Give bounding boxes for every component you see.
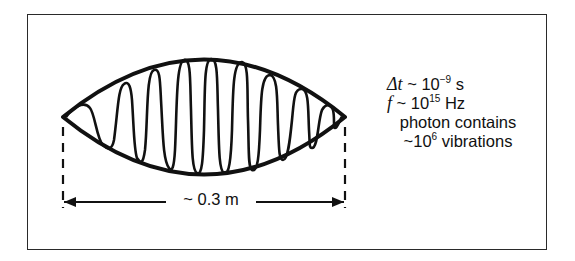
unit: Hz <box>445 94 465 112</box>
wave-oscillation <box>66 59 342 173</box>
photon-contains-text: photon contains <box>383 113 533 132</box>
frequency-annotation: f ~ 1015 Hz <box>383 94 533 113</box>
right-arrowhead-icon <box>332 197 344 207</box>
packet-length-label: ~ 0.3 m <box>166 190 256 209</box>
approx-sign: ~ <box>397 94 407 112</box>
approx-sign: ~ <box>404 132 414 150</box>
vibrations-text: vibrations <box>442 132 513 150</box>
left-arrowhead-icon <box>64 197 76 207</box>
exponent: −9 <box>440 74 451 85</box>
unit: s <box>456 75 464 93</box>
base: 10 <box>413 132 431 150</box>
base: 10 <box>421 75 439 93</box>
exponent: 15 <box>429 93 440 104</box>
base: 10 <box>411 94 429 112</box>
vibrations-annotation: ~106 vibrations <box>383 132 533 151</box>
frequency-symbol: f <box>387 93 392 113</box>
delta-t-symbol: Δt <box>387 74 403 94</box>
exponent: 6 <box>432 131 438 142</box>
annotation-block: Δt ~ 10−9 s f ~ 1015 Hz photon contains … <box>383 75 533 151</box>
delta-t-annotation: Δt ~ 10−9 s <box>383 75 533 94</box>
approx-sign: ~ <box>407 75 417 93</box>
